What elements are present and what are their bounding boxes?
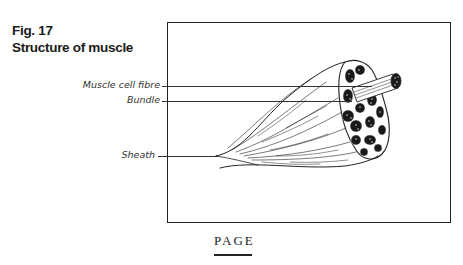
page-footer: PAGE [214, 233, 255, 249]
label-muscle-cell-fibre: Muscle cell fibre [80, 79, 160, 90]
leader-line-muscle-cell-fibre [162, 86, 372, 87]
leader-line-bundle [162, 101, 352, 102]
label-sheath: Sheath [100, 149, 155, 160]
label-bundle: Bundle [100, 94, 160, 105]
footer-rule [214, 254, 252, 256]
leader-line-sheath [158, 156, 218, 157]
muscle-illustration [0, 0, 463, 265]
